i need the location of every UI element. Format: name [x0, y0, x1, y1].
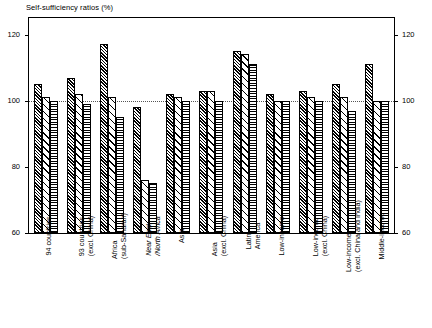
bar: [215, 101, 223, 233]
x-axis-label-line: Asia: [178, 229, 187, 243]
x-axis-label-line: 94 countries: [45, 216, 54, 255]
x-axis-label-cell: Low-income: [262, 236, 295, 328]
bar-group: [34, 18, 58, 233]
y-axis-tick-label-left: 60: [0, 228, 20, 237]
x-axis-label-cell: 94 countries: [28, 236, 61, 328]
y-tick-left-60: [25, 233, 29, 234]
x-axis-label: Low-income(excl. China): [312, 216, 329, 256]
bar: [274, 101, 282, 233]
y-axis-tick-label-left: 80: [0, 162, 20, 171]
x-axis-label: Near East/North Africa: [145, 216, 162, 256]
y-tick-right-80: [394, 167, 398, 168]
x-axis-label: Asia: [178, 229, 187, 243]
bar: [299, 91, 307, 233]
x-axis-label-cell: Low-income(excl. China): [295, 236, 328, 328]
bar: [199, 91, 207, 233]
bar: [133, 107, 141, 233]
x-axis-label-cell: Middle-income: [362, 236, 395, 328]
x-axis-labels: 94 countries93 countries(excl. China)Afr…: [28, 236, 395, 328]
bar: [249, 64, 257, 233]
bar: [182, 101, 190, 233]
chart-container: Self-sufficiency ratios (%) 1969/71 1983…: [0, 0, 432, 328]
bar-group: [299, 18, 323, 233]
bar-group: [100, 18, 124, 233]
x-axis-label-cell: Near East/North Africa: [128, 236, 161, 328]
y-axis-tick-label-left: 100: [0, 96, 20, 105]
bar: [207, 91, 215, 233]
bar: [83, 104, 91, 233]
x-axis-label: 94 countries: [45, 216, 54, 255]
y-tick-right-60: [394, 233, 398, 234]
bar: [307, 97, 315, 233]
y-axis-tick-label-right: 80: [402, 162, 424, 171]
y-axis-tick-label-right: 100: [402, 96, 424, 105]
bar-groups: [29, 18, 394, 233]
x-axis-label-cell: Asia(excl. China): [195, 236, 228, 328]
bar: [315, 101, 323, 233]
bar-group: [233, 18, 257, 233]
x-axis-label: LatinAmerica: [245, 223, 262, 249]
plot-inner: [29, 18, 394, 233]
x-axis-label-cell: Asia: [161, 236, 194, 328]
bar-group: [133, 18, 157, 233]
bar-group: [166, 18, 190, 233]
bar: [174, 97, 182, 233]
y-tick-right-100: [394, 101, 398, 102]
x-axis-label: 93 countries(excl. China): [78, 216, 95, 256]
bar: [365, 64, 373, 233]
bar: [241, 54, 249, 233]
bar-group: [67, 18, 91, 233]
x-axis-label-cell: 93 countries(excl. China): [61, 236, 94, 328]
bar: [50, 101, 58, 233]
x-axis-label: Middle-income: [378, 213, 387, 260]
x-axis-label: Low-income(excl. China and India): [345, 200, 362, 272]
bar: [233, 51, 241, 233]
bar: [266, 94, 274, 233]
plot-area: [28, 17, 395, 234]
bar: [67, 78, 75, 233]
y-axis-tick-label-right: 60: [402, 228, 424, 237]
x-axis-label: Asia(excl. China): [211, 216, 228, 256]
x-axis-label-line: Low-income: [278, 217, 287, 256]
x-axis-label: Africa(sub-Saharan): [111, 213, 128, 259]
x-axis-label-line: Middle-income: [378, 213, 387, 260]
bar-group: [365, 18, 389, 233]
y-axis-tick-label-left: 120: [0, 30, 20, 39]
x-axis-label: Low-income: [278, 217, 287, 256]
bar: [100, 44, 108, 233]
bar: [166, 94, 174, 233]
x-axis-label-cell: Africa(sub-Saharan): [95, 236, 128, 328]
bar: [282, 101, 290, 233]
bar-group: [266, 18, 290, 233]
x-axis-label-cell: LatinAmerica: [228, 236, 261, 328]
x-axis-label-cell: Low-income(excl. China and India): [328, 236, 361, 328]
chart-title: Self-sufficiency ratios (%): [26, 3, 113, 12]
bar: [42, 97, 50, 233]
bar: [75, 94, 83, 233]
bar: [332, 84, 340, 233]
y-axis-tick-label-right: 120: [402, 30, 424, 39]
y-tick-right-120: [394, 35, 398, 36]
x-axis-label-line: Low-income: [312, 216, 321, 256]
bar: [34, 84, 42, 233]
bar-group: [199, 18, 223, 233]
